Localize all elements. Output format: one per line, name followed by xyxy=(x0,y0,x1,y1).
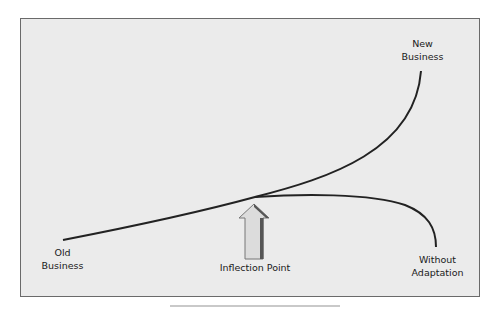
without-adaptation-curve xyxy=(255,195,436,247)
label-new-business: New Business xyxy=(395,37,450,63)
label-without-adaptation: Without Adaptation xyxy=(400,253,475,279)
label-old-business: Old Business xyxy=(35,246,90,272)
label-inflection-point: Inflection Point xyxy=(205,261,305,274)
inflection-arrow-icon xyxy=(239,204,269,259)
figure-caption-illegible xyxy=(170,303,340,309)
